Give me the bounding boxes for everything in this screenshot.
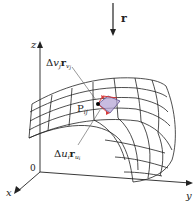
leader-v xyxy=(72,67,96,100)
mapping-arrow-label: r xyxy=(121,12,127,25)
origin-label: 0 xyxy=(30,163,36,173)
vector-v-label: Δvjrvj xyxy=(46,57,71,71)
surface-grid xyxy=(29,78,175,182)
mapping-arrow xyxy=(110,3,116,36)
x-axis-label: x xyxy=(6,187,12,198)
surface-diagram: r z y x 0 xyxy=(0,0,196,203)
leader-u xyxy=(78,110,100,145)
y-axis-arrowhead xyxy=(186,180,193,186)
vector-u-label: Δuirui xyxy=(54,148,81,161)
x-axis-arrowhead xyxy=(14,186,21,194)
axes xyxy=(18,44,190,191)
z-axis-label: z xyxy=(30,39,37,50)
z-axis-arrowhead xyxy=(37,41,43,48)
point-label: Pij xyxy=(77,103,88,116)
point-p-ij xyxy=(96,102,100,106)
y-axis-label: y xyxy=(185,190,192,201)
